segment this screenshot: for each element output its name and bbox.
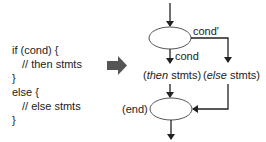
end-label: (end)	[122, 103, 148, 115]
diagram-canvas: if (cond) { // then stmts } else { // el…	[0, 0, 266, 142]
condition-node	[149, 27, 191, 49]
right-arrow-icon	[107, 56, 127, 75]
cond-true-label: cond	[175, 50, 199, 62]
else-to-end-edge	[193, 84, 228, 109]
cond-false-label: cond'	[193, 25, 219, 37]
flowchart: cond' cond (then stmts) (else stmts) (en…	[0, 0, 266, 142]
then-block-label: (then stmts)	[143, 69, 201, 81]
end-node	[150, 98, 192, 120]
else-block-label: (else stmts)	[203, 69, 260, 81]
